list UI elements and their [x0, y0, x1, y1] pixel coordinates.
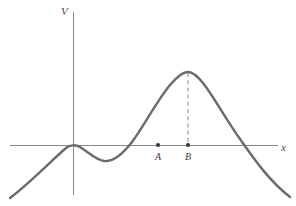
x-axis-label: x: [281, 142, 286, 153]
point-label-b: B: [183, 152, 194, 162]
y-axis-label: V: [61, 6, 68, 17]
potential-energy-figure: V x A B: [0, 0, 296, 206]
point-label-a: A: [153, 152, 164, 162]
point-marker-a: [156, 143, 160, 147]
plot-canvas: [0, 0, 296, 206]
potential-energy-curve: [10, 72, 290, 198]
point-marker-b: [186, 143, 190, 147]
